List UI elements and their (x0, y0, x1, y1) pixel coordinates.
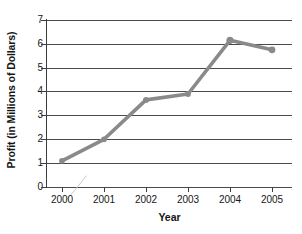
x-tick-mark (272, 187, 273, 192)
x-tick-mark (104, 187, 105, 192)
x-tick-mark (230, 187, 231, 192)
gridline-4 (47, 91, 292, 92)
line-chart: Profit (in Millions of Dollars) 7 6 5 4 … (0, 0, 302, 234)
y-axis-title: Profit (in Millions of Dollars) (0, 0, 22, 200)
x-axis-line (47, 187, 292, 188)
x-tick-label-2002: 2002 (124, 194, 168, 205)
gridline-6 (47, 44, 292, 45)
x-axis-title: Year (47, 211, 292, 223)
gridline-7 (47, 20, 292, 21)
x-tick-label-2004: 2004 (208, 194, 252, 205)
gridline-5 (47, 68, 292, 69)
x-tick-mark (146, 187, 147, 192)
x-tick-label-2003: 2003 (166, 194, 210, 205)
gridline-3 (47, 115, 292, 116)
x-tick-mark (62, 187, 63, 192)
y-axis-title-text: Profit (in Millions of Dollars) (5, 32, 17, 169)
x-tick-label-2001: 2001 (82, 194, 126, 205)
x-tick-mark (188, 187, 189, 192)
gridline-2 (47, 139, 292, 140)
gridline-1 (47, 163, 292, 164)
x-tick-label-2000: 2000 (40, 194, 84, 205)
plot-area (47, 20, 292, 187)
x-tick-label-2005: 2005 (250, 194, 294, 205)
